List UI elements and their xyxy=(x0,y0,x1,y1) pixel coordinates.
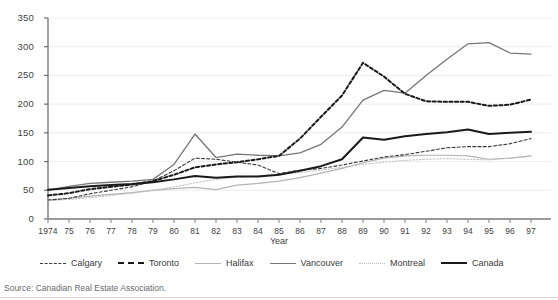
y-tick-label: 100 xyxy=(8,156,34,167)
legend-item-canada[interactable]: Canada xyxy=(441,258,504,268)
legend-swatch-canada-icon xyxy=(441,262,467,264)
chart-legend: CalgaryTorontoHalifaxVancouverMontrealCa… xyxy=(40,258,540,268)
legend-label: Halifax xyxy=(226,258,254,268)
legend-swatch-vancouver-icon xyxy=(270,263,296,264)
series-line-toronto xyxy=(48,63,531,196)
legend-item-montreal[interactable]: Montreal xyxy=(359,258,425,268)
legend-label: Calgary xyxy=(71,258,102,268)
gridlines xyxy=(48,18,551,219)
legend-label: Toronto xyxy=(149,258,179,268)
chart-container: 050100150200250300350 197475767778798081… xyxy=(0,0,558,300)
data-series-group xyxy=(48,43,531,201)
series-line-vancouver xyxy=(48,43,531,191)
legend-item-halifax[interactable]: Halifax xyxy=(195,258,254,268)
y-tick-label: 250 xyxy=(8,69,34,80)
y-tick-label: 50 xyxy=(8,184,34,195)
y-tick-label: 300 xyxy=(8,41,34,52)
legend-swatch-calgary-icon xyxy=(40,263,66,264)
legend-item-vancouver[interactable]: Vancouver xyxy=(270,258,343,268)
x-tick-label: 97 xyxy=(516,226,546,236)
series-line-montreal xyxy=(48,156,531,200)
legend-swatch-halifax-icon xyxy=(195,263,221,264)
legend-label: Canada xyxy=(472,258,504,268)
y-tick-label: 150 xyxy=(8,127,34,138)
legend-item-toronto[interactable]: Toronto xyxy=(118,258,179,268)
source-note: Source: Canadian Real Estate Association… xyxy=(4,283,166,293)
legend-item-calgary[interactable]: Calgary xyxy=(40,258,102,268)
line-chart-plot xyxy=(0,0,558,240)
legend-swatch-toronto-icon xyxy=(118,262,144,264)
y-tick-label: 200 xyxy=(8,98,34,109)
y-tick-label: 350 xyxy=(8,12,34,23)
footer-divider xyxy=(0,297,558,298)
series-line-canada xyxy=(48,129,531,189)
legend-label: Vancouver xyxy=(301,258,343,268)
x-axis-title: Year xyxy=(0,236,558,246)
y-tick-label: 0 xyxy=(8,213,34,224)
legend-label: Montreal xyxy=(390,258,425,268)
legend-swatch-montreal-icon xyxy=(359,263,385,264)
